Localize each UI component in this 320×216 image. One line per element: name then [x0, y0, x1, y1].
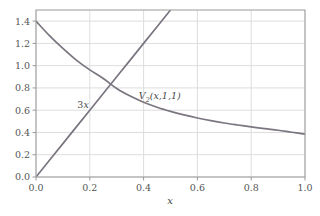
y-tick-label: 1.4	[15, 16, 30, 27]
y-tick-label: 0.0	[15, 171, 30, 182]
decay-label-arguments: (x,1,1)	[150, 90, 181, 101]
x-tick-label: 0.6	[190, 182, 205, 193]
x-tick-label: 0.0	[28, 182, 43, 193]
x-tick-marks	[36, 177, 305, 181]
x-axis-title: x	[167, 195, 173, 206]
x-tick-label: 1.0	[297, 182, 312, 193]
linear-label-variable: x	[83, 99, 89, 110]
y-tick-label: 0.4	[15, 127, 30, 138]
y-tick-label: 0.8	[15, 82, 30, 93]
y-tick-label: 1.0	[15, 60, 30, 71]
y-tick-marks	[33, 21, 37, 177]
y-tick-label: 0.2	[15, 149, 30, 160]
plot-canvas: 0.00.20.40.60.81.0 0.00.20.40.60.81.01.2…	[0, 0, 320, 216]
y-tick-label: 0.6	[15, 105, 30, 116]
x-tick-label: 0.4	[136, 182, 151, 193]
chart-figure: 0.00.20.40.60.81.0 0.00.20.40.60.81.01.2…	[0, 0, 320, 216]
x-tick-labels: 0.00.20.40.60.81.0	[28, 182, 312, 193]
y-tick-labels: 0.00.20.40.60.81.01.21.4	[15, 16, 30, 183]
y-tick-label: 1.2	[15, 38, 30, 49]
linear-curve-label: 3x	[77, 99, 89, 110]
x-tick-label: 0.8	[244, 182, 259, 193]
x-tick-label: 0.2	[82, 182, 97, 193]
